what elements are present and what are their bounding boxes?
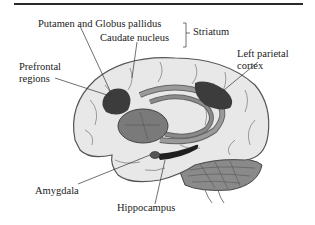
- putamen-globus-pallidus: [118, 109, 168, 143]
- label-parietal-line2: cortex: [237, 60, 263, 72]
- label-caudate-nucleus: Caudate nucleus: [100, 32, 169, 44]
- label-striatum: Striatum: [193, 26, 229, 38]
- label-parietal-line1: Left parietal: [237, 48, 289, 60]
- label-hippocampus: Hippocampus: [117, 202, 175, 214]
- amygdala: [150, 152, 160, 159]
- label-amygdala: Amygdala: [35, 185, 79, 197]
- label-prefrontal-line2: regions: [19, 73, 50, 85]
- label-putamen-globus-pallidus: Putamen and Globus pallidus: [38, 18, 161, 30]
- label-prefrontal-line1: Prefrontal: [19, 61, 61, 73]
